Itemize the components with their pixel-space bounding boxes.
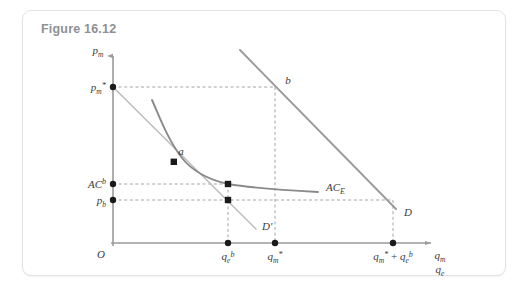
marker-point-acb <box>225 181 231 187</box>
marker-y-pb <box>110 197 116 203</box>
y-axis-label: pm <box>92 44 105 59</box>
curve-label-D: D <box>403 206 412 218</box>
origin-label: O <box>97 248 105 260</box>
average-cost-curve-ACE <box>152 100 318 192</box>
x-tick-label-qeb: qeb <box>222 250 235 265</box>
point-b-label: b <box>285 74 291 86</box>
marker-x-qm-star <box>272 240 278 246</box>
curve-label-ACE: ACE <box>325 181 345 196</box>
point-a-label: a <box>178 145 184 157</box>
x-tick-qm-star-sup: * <box>278 249 283 259</box>
x-tick-qeb-sup: b <box>230 250 234 259</box>
y-axis-label-sub: m <box>98 50 104 59</box>
demand-curve-D <box>240 50 396 209</box>
x-axis-qe-sub: e <box>441 269 445 278</box>
marker-y-pm-star <box>110 84 116 90</box>
dashed-guides-group <box>113 87 393 243</box>
x-tick-label-qm-star: qm* <box>267 249 283 265</box>
figure-plot: pm pm* ACb pb O qeb qm* qm* + qeb qm qe … <box>0 0 531 295</box>
y-tick-acb-sup: b <box>102 177 106 186</box>
marker-point-pb <box>225 197 231 203</box>
y-tick-label-pb: pb <box>96 194 107 209</box>
y-tick-acb-base: AC <box>87 178 103 190</box>
curve-ACE-base: AC <box>325 181 341 193</box>
curve-ACE-sub: E <box>339 187 345 196</box>
axes-group <box>111 56 431 246</box>
y-tick-label-acb: ACb <box>87 177 106 191</box>
x-tick-label-sum: qm* + qeb <box>373 249 413 265</box>
marker-point-a <box>171 159 177 165</box>
marker-y-acb <box>110 181 116 187</box>
x-axis-label-qe: qe <box>436 263 446 278</box>
marker-x-sum <box>390 240 396 246</box>
y-tick-pm-star-sup: * <box>102 80 107 90</box>
marker-x-qeb <box>225 240 231 246</box>
x-tick-sum-q2-sup: b <box>409 250 413 259</box>
curve-label-D-prime: D' <box>261 220 273 232</box>
x-axis-label-qm: qm <box>435 249 447 264</box>
y-tick-pb-sub: b <box>102 200 106 209</box>
demand-curve-D-prime <box>113 87 256 229</box>
y-tick-label-pm-star: pm* <box>90 80 107 96</box>
